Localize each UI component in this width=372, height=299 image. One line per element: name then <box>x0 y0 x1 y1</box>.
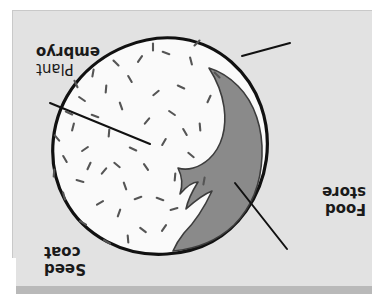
speckle <box>203 178 204 185</box>
label-plant-embryo-line2: embryo <box>36 43 156 60</box>
label-seed-coat: Seed coat <box>44 243 154 277</box>
label-food-store-line2: store <box>246 183 366 200</box>
speckle <box>200 124 201 131</box>
label-plant-embryo: Plant embryo <box>36 43 156 77</box>
speckle <box>128 236 129 243</box>
speckle <box>54 170 55 177</box>
diagram-canvas: Plant embryo Food store Seed coat <box>0 0 372 299</box>
speckle <box>175 174 176 181</box>
speckle <box>109 130 110 137</box>
label-plant-embryo-line1: Plant <box>36 60 156 77</box>
label-seed-coat-line1: Seed <box>44 260 154 277</box>
label-seed-coat-line2: coat <box>44 243 154 260</box>
label-food-store: Food store <box>246 183 366 217</box>
label-food-store-line1: Food <box>246 200 366 217</box>
seed-figure: Plant embryo Food store Seed coat <box>0 0 372 299</box>
leader-seed-coat <box>242 43 290 56</box>
speckle <box>106 86 107 93</box>
